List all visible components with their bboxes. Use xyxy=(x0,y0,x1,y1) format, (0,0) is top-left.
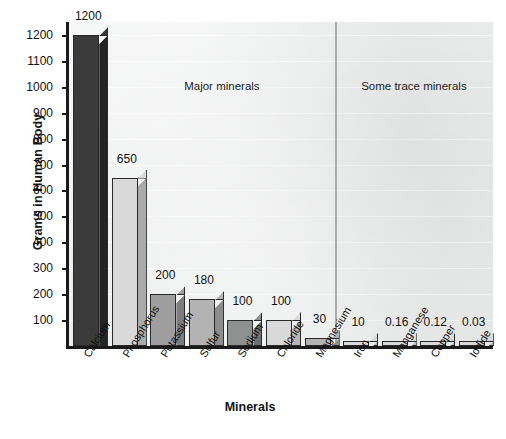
y-axis-tick: 500 xyxy=(62,216,69,218)
y-axis-tick-label: 1000 xyxy=(26,80,53,94)
y-axis-tick-label: 500 xyxy=(33,209,53,223)
bar-value-label: 30 xyxy=(313,312,326,326)
bar-chart: Grams in Human Body Minerals 12001100100… xyxy=(0,0,506,439)
y-axis-tick-label: 700 xyxy=(33,158,53,172)
bar-value-label: 180 xyxy=(194,273,214,287)
y-axis-tick: 900 xyxy=(62,113,69,115)
y-axis-tick-label: 100 xyxy=(33,313,53,327)
y-axis-tick: 200 xyxy=(62,294,69,296)
gridline xyxy=(69,61,493,62)
bar-front-face xyxy=(73,35,99,346)
x-axis-title: Minerals xyxy=(170,400,330,414)
y-axis-tick: 1200 xyxy=(62,35,69,37)
y-axis-tick: 1100 xyxy=(62,61,69,63)
bar-value-label: 100 xyxy=(271,294,291,308)
gridline xyxy=(69,113,493,114)
bar xyxy=(112,178,138,346)
y-axis-tick: 600 xyxy=(62,190,69,192)
y-axis-tick-label: 200 xyxy=(33,287,53,301)
y-axis-tick: 400 xyxy=(62,242,69,244)
y-axis-tick: 100 xyxy=(62,320,69,322)
y-axis-tick-label: 900 xyxy=(33,106,53,120)
y-axis-tick-label: 600 xyxy=(33,183,53,197)
section-header: Major minerals xyxy=(184,80,259,92)
bar-value-label: 1200 xyxy=(75,9,102,23)
bar-value-label: 650 xyxy=(117,152,137,166)
bar-value-label: 100 xyxy=(232,294,252,308)
gridline xyxy=(69,35,493,36)
y-axis-tick-label: 800 xyxy=(33,132,53,146)
bar xyxy=(73,35,99,346)
y-axis-tick: 1000 xyxy=(62,87,69,89)
y-axis-tick-label: 400 xyxy=(33,235,53,249)
section-divider xyxy=(335,22,337,346)
y-axis-tick: 800 xyxy=(62,139,69,141)
y-axis-tick: 700 xyxy=(62,165,69,167)
bar-value-label: 200 xyxy=(155,268,175,282)
y-axis-tick: 300 xyxy=(62,268,69,270)
y-axis-tick-label: 1200 xyxy=(26,28,53,42)
plot-area: 120011001000900800700600500400300200100 … xyxy=(66,22,493,349)
bar-side-face xyxy=(99,35,108,346)
bar-front-face xyxy=(112,178,138,346)
y-axis-tick-label: 300 xyxy=(33,261,53,275)
y-axis-tick-label: 1100 xyxy=(27,54,53,68)
gridline xyxy=(69,139,493,140)
section-header: Some trace minerals xyxy=(361,80,466,92)
bar-value-label: 10 xyxy=(351,315,364,329)
